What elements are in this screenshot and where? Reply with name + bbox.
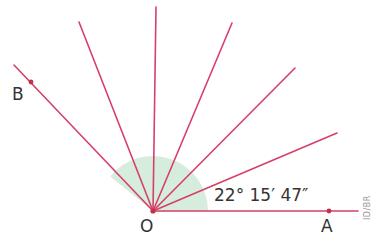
ray-6 xyxy=(79,22,153,211)
point-a-label: A xyxy=(321,218,333,235)
image-credit: ID/BR xyxy=(363,195,372,220)
angle-measure-label: 22° 15′ 47″ xyxy=(214,187,308,204)
vertex-label: O xyxy=(140,218,153,235)
point-b-dot xyxy=(29,80,34,85)
ray-ob xyxy=(14,65,153,211)
point-b-label: B xyxy=(12,86,24,103)
vertex-dot xyxy=(150,208,155,213)
angle-arc-sector xyxy=(110,156,208,211)
angle-diagram xyxy=(0,0,377,247)
point-a-dot xyxy=(327,209,332,214)
